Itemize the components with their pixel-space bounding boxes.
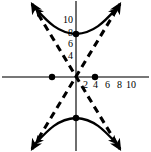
- x-tick-label-4: 4: [93, 80, 98, 90]
- y-tick-label-8: 8: [58, 28, 73, 38]
- x-tick-label-2: 2: [83, 80, 88, 90]
- y-tick-label-10: 10: [58, 15, 73, 25]
- y-tick-label-6: 6: [58, 39, 73, 49]
- x-tick-label-10: 10: [126, 80, 136, 90]
- vertex-upper-dot: [73, 31, 79, 37]
- y-tick-label-4: 4: [58, 51, 73, 61]
- vertex-lower-dot: [73, 115, 79, 121]
- x-tick-label-6: 6: [105, 80, 110, 90]
- hyperbola-figure: 10 8 6 4 2 4 6 8 10: [0, 0, 151, 152]
- plotted-points: [49, 31, 98, 121]
- plot-canvas: [0, 0, 151, 152]
- point-left-dot: [49, 74, 55, 80]
- x-tick-label-8: 8: [117, 80, 122, 90]
